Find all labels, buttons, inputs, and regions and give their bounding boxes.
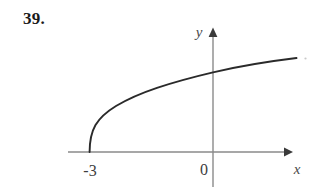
y-axis-arrowhead (209, 28, 218, 38)
x-intercept-tick-label: -3 (83, 162, 96, 179)
x-axis-label: x (293, 161, 301, 177)
origin-tick-label: 0 (200, 161, 208, 178)
scan-speck-artifact (304, 57, 306, 59)
sqrt-curve (90, 58, 297, 152)
graph-plot: y x 0 -3 (0, 0, 317, 189)
y-axis-label: y (194, 24, 203, 40)
figure-container: 39. y x 0 -3 (0, 0, 317, 189)
x-axis-arrowhead (284, 148, 293, 157)
